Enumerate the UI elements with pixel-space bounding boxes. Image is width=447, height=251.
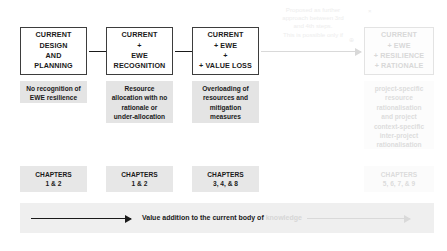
- desc-4-line-3: rationalisation: [376, 103, 421, 112]
- desc-3-line-4: measures: [210, 112, 241, 121]
- chapters-block-2: CHAPTERS 1 & 2: [106, 166, 173, 192]
- chapters-3-line-1: CHAPTERS: [207, 170, 243, 179]
- desc-1-line-2: EWE resilience: [30, 93, 77, 102]
- step-box-current-design-and-planning[interactable]: CURRENT DESIGN AND PLANNING: [20, 27, 87, 75]
- arrow-value-addition-faded: [307, 218, 410, 219]
- annotation-close-icon: ×: [368, 8, 372, 14]
- step-box-current-plus-ewe-recognition[interactable]: CURRENT + EWE RECOGNITION: [106, 27, 173, 75]
- annotation-plus-circle-icon: ⊕: [349, 36, 354, 43]
- step-1-line-1: CURRENT: [36, 30, 72, 40]
- desc-4-line-2: resource: [385, 93, 413, 102]
- step-box-current-plus-ewe-plus-resilience-plus-rationale[interactable]: CURRENT + EWE + RESILIENCE + RATIONALE: [364, 27, 434, 75]
- step-4-line-3: + RESILIENCE: [374, 51, 425, 61]
- step-1-line-2: DESIGN: [39, 41, 67, 51]
- proposal-annotation: Proposed as further approach between 3rd…: [268, 6, 358, 39]
- chapters-block-1: CHAPTERS 1 & 2: [20, 166, 87, 192]
- desc-1-line-1: No recognition of: [26, 84, 81, 93]
- arrow-step3-to-step4: [261, 51, 361, 52]
- desc-2-line-3: rationale or: [122, 103, 158, 112]
- step-3-line-3: +: [223, 51, 227, 61]
- desc-4-line-5: context-specific: [374, 122, 424, 131]
- description-project-specific-rationalisation: project-specific resource rationalisatio…: [364, 81, 434, 149]
- desc-4-line-7: rationalisation: [376, 140, 421, 149]
- value-addition-label-faded: knowledge: [266, 214, 302, 221]
- annotation-line-1: Proposed as further: [268, 6, 358, 14]
- desc-4-line-6: inter-project: [380, 131, 418, 140]
- step-3-line-1: CURRENT: [208, 30, 244, 40]
- annotation-line-3: and 4th steps.: [268, 22, 358, 30]
- chapters-3-line-2: 3, 4, & 8: [213, 179, 238, 188]
- step-4-line-2: + EWE: [387, 41, 410, 51]
- desc-2-line-4: under-allocation: [114, 112, 165, 121]
- step-3-line-2: + EWE: [214, 41, 237, 51]
- annotation-line-2: approach between 3rd: [268, 14, 358, 22]
- step-2-line-3: EWE: [131, 51, 148, 61]
- step-2-line-2: +: [137, 41, 141, 51]
- step-4-line-1: CURRENT: [381, 30, 417, 40]
- chapters-block-4: CHAPTERS 5, 6, 7, & 9: [364, 166, 434, 192]
- description-resource-allocation: Resource allocation with no rationale or…: [106, 81, 173, 123]
- step-2-line-1: CURRENT: [122, 30, 158, 40]
- step-box-current-plus-ewe-plus-value-loss[interactable]: CURRENT + EWE + + VALUE LOSS: [192, 27, 259, 75]
- chapters-1-line-2: 1 & 2: [46, 179, 62, 188]
- desc-3-line-2: resources and: [203, 93, 248, 102]
- desc-2-line-1: Resource: [124, 84, 154, 93]
- value-addition-label-solid: Value addition to the current body of: [142, 214, 264, 221]
- step-1-line-4: PLANNING: [34, 61, 72, 71]
- arrow-value-addition-solid: [31, 218, 131, 219]
- step-4-line-4: + RATIONALE: [375, 61, 424, 71]
- desc-4-line-1: project-specific: [375, 84, 424, 93]
- desc-3-line-1: Overloading of: [202, 84, 249, 93]
- desc-2-line-2: allocation with no: [112, 93, 168, 102]
- chapters-1-line-1: CHAPTERS: [35, 170, 71, 179]
- step-3-line-4: + VALUE LOSS: [199, 61, 252, 71]
- step-2-line-4: RECOGNITION: [114, 61, 166, 71]
- step-1-line-3: AND: [46, 51, 62, 61]
- chapters-4-line-1: CHAPTERS: [381, 170, 417, 179]
- desc-4-line-4: and project: [381, 112, 417, 121]
- chapters-4-line-2: 5, 6, 7, & 9: [383, 179, 415, 188]
- chapters-2-line-2: 1 & 2: [132, 179, 148, 188]
- description-overloading-of-resources: Overloading of resources and mitigation …: [192, 81, 259, 123]
- description-no-recognition-of-ewe-resilience: No recognition of EWE resilience: [20, 81, 87, 103]
- chapters-2-line-1: CHAPTERS: [121, 170, 157, 179]
- desc-3-line-3: mitigation: [210, 103, 242, 112]
- chapters-block-3: CHAPTERS 3, 4, & 8: [192, 166, 259, 192]
- diagram-canvas: Proposed as further approach between 3rd…: [0, 0, 447, 251]
- annotation-line-4: This is possible only if: [268, 31, 358, 39]
- value-addition-label: Value addition to the current body of kn…: [142, 213, 302, 223]
